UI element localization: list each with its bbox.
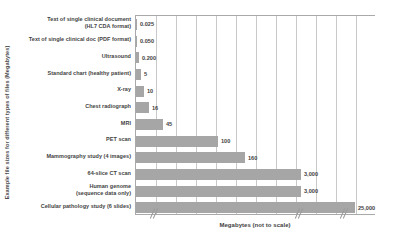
bar-value-label: 0.200: [142, 55, 156, 61]
category-label-column: Text of single clinical document(HL7 CDA…: [16, 15, 135, 215]
category-label-row: Ultrasound: [16, 48, 131, 65]
category-label-row: PET scan: [16, 132, 131, 149]
category-label-row: Chest radiograph: [16, 98, 131, 115]
bar-value-label: 100: [221, 138, 230, 144]
category-label: Ultrasound: [102, 53, 131, 60]
category-label-row: Mammography study (4 images): [16, 148, 131, 165]
category-label: MRI: [121, 120, 131, 127]
bar-row: 0.200: [136, 52, 156, 63]
category-label: Mammography study (4 images): [46, 153, 131, 160]
bar-value-label: 10: [147, 88, 153, 94]
bar: [136, 186, 301, 197]
bar-value-label: 45: [166, 121, 172, 127]
bar-row: 5: [136, 69, 147, 80]
bar-row: 0.025: [136, 19, 154, 30]
bar: [136, 19, 137, 30]
plot-area: 0.0250.0500.20051016451001603,0003,00025…: [135, 15, 375, 215]
bar: [136, 169, 301, 180]
bar-row: 45: [136, 119, 172, 130]
category-label-row: Text of single clinical document(HL7 CDA…: [16, 15, 131, 32]
category-label-row: 64-slice CT scan: [16, 165, 131, 182]
category-label-row: Cellular pathology study (6 slides): [16, 198, 131, 215]
gridline: [336, 16, 337, 215]
bar: [136, 202, 355, 213]
bar-value-label: 25,000: [358, 205, 375, 211]
bar: [136, 119, 163, 130]
category-label: Human genome(sequence data only): [76, 183, 131, 198]
bar-value-label: 3,000: [304, 171, 318, 177]
category-label-row: X-ray: [16, 82, 131, 99]
bar-row: 0.050: [136, 36, 154, 47]
bar-row: 100: [136, 136, 230, 147]
category-label-row: MRI: [16, 115, 131, 132]
category-label: Text of single clinical document(HL7 CDA…: [47, 16, 131, 31]
bar: [136, 152, 245, 163]
bar-row: 160: [136, 152, 257, 163]
bar: [136, 86, 144, 97]
x-axis-line: [135, 214, 375, 215]
bar-row: 3,000: [136, 186, 318, 197]
bar: [136, 52, 139, 63]
bar-row: 25,000: [136, 202, 375, 213]
bar-row: 10: [136, 86, 153, 97]
bar: [136, 136, 218, 147]
category-label-row: Text of single clinical doc (PDF format): [16, 32, 131, 49]
bar-value-label: 5: [144, 71, 147, 77]
bar-row: 3,000: [136, 169, 318, 180]
category-label: PET scan: [106, 136, 131, 143]
bar-value-label: 16: [152, 105, 158, 111]
x-axis-title: Megabytes (not to scale): [135, 222, 375, 228]
category-label: 64-slice CT scan: [88, 170, 131, 177]
category-label: Standard chart (healthy patient): [48, 70, 131, 77]
gridline: [356, 16, 357, 215]
bar: [136, 36, 137, 47]
bar: [136, 69, 141, 80]
bar-value-label: 160: [248, 155, 257, 161]
bar-value-label: 0.025: [140, 21, 154, 27]
bar-row: 16: [136, 102, 158, 113]
bar: [136, 102, 149, 113]
y-axis-title: Example file sizes for different types o…: [0, 0, 14, 245]
category-label: Chest radiograph: [85, 103, 131, 110]
chart-figure: Example file sizes for different types o…: [0, 0, 398, 245]
category-label: X-ray: [117, 86, 131, 93]
category-label: Text of single clinical doc (PDF format): [29, 36, 131, 43]
bar-value-label: 3,000: [304, 188, 318, 194]
category-label-row: Human genome(sequence data only): [16, 182, 131, 199]
category-label: Cellular pathology study (6 slides): [41, 203, 131, 210]
category-label-row: Standard chart (healthy patient): [16, 65, 131, 82]
bar-value-label: 0.050: [140, 38, 154, 44]
